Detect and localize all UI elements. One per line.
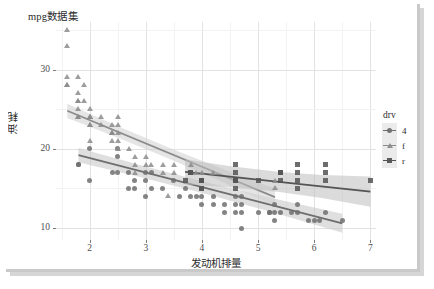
data-point-f (199, 170, 205, 175)
data-point-f (75, 90, 81, 95)
data-point-r (199, 178, 204, 183)
data-point-f (272, 185, 278, 190)
data-point-f (64, 82, 70, 87)
data-point-4 (239, 210, 244, 215)
legend-key-circle-icon (382, 123, 397, 138)
data-point-f (115, 138, 121, 143)
data-point-f (64, 43, 70, 48)
data-point-f (126, 146, 132, 151)
data-point-f (143, 154, 149, 159)
legend-item-f[interactable]: f (382, 138, 432, 153)
data-point-f (171, 170, 177, 175)
data-point-4 (239, 202, 244, 207)
data-point-f (132, 162, 138, 167)
data-point-f (115, 130, 121, 135)
data-point-f (64, 27, 70, 32)
data-point-f (115, 146, 121, 151)
x-axis-title: 发动机排量 (56, 255, 376, 270)
data-point-4 (312, 218, 317, 223)
data-point-4 (211, 202, 216, 207)
y-tick-label: 20 (10, 143, 50, 153)
data-point-r (323, 178, 328, 183)
data-point-f (87, 106, 93, 111)
legend: drv 4fr (382, 110, 432, 168)
data-point-f (148, 162, 154, 167)
data-point-f (81, 98, 87, 103)
x-tick-mark (202, 240, 203, 243)
data-point-4 (340, 218, 345, 223)
x-tick-mark (314, 240, 315, 243)
data-point-f (171, 162, 177, 167)
data-point-4 (278, 210, 283, 215)
data-point-r (323, 162, 328, 167)
data-point-4 (295, 202, 300, 207)
y-tick-mark (53, 70, 56, 71)
data-point-4 (295, 210, 300, 215)
data-point-f (87, 138, 93, 143)
data-point-f (109, 122, 115, 127)
x-tick-label: 3 (131, 243, 161, 253)
y-tick-label: 30 (10, 64, 50, 74)
data-point-r (368, 178, 373, 183)
data-point-r (199, 186, 204, 191)
data-point-4 (306, 218, 311, 223)
legend-title: drv (383, 110, 432, 120)
data-point-4 (110, 170, 115, 175)
x-tick-label: 2 (75, 243, 105, 253)
data-point-f (75, 74, 81, 79)
x-tick-label: 7 (355, 243, 385, 253)
data-point-f (132, 170, 138, 175)
data-point-4 (239, 194, 244, 199)
data-point-f (188, 162, 194, 167)
data-point-4 (177, 194, 182, 199)
data-point-r (233, 170, 238, 175)
data-point-f (160, 170, 166, 175)
data-point-r (295, 186, 300, 191)
data-point-f (64, 74, 70, 79)
data-point-f (165, 193, 171, 198)
x-tick-mark (146, 240, 147, 243)
data-point-f (160, 162, 166, 167)
data-point-r (183, 178, 188, 183)
legend-label: f (402, 141, 405, 151)
data-point-f (115, 114, 121, 119)
legend-item-4[interactable]: 4 (382, 123, 432, 138)
data-point-f (81, 82, 87, 87)
data-point-4 (222, 210, 227, 215)
legend-item-r[interactable]: r (382, 153, 432, 168)
data-point-4 (233, 202, 238, 207)
x-tick-label: 4 (187, 243, 217, 253)
data-point-r (233, 186, 238, 191)
data-point-f (132, 154, 138, 159)
data-point-r (233, 178, 238, 183)
data-point-r (256, 178, 261, 183)
data-point-f (87, 114, 93, 119)
data-point-f (115, 122, 121, 127)
data-point-4 (183, 186, 188, 191)
legend-key-square-icon (382, 153, 397, 168)
data-point-r (188, 170, 193, 175)
data-point-f (87, 122, 93, 127)
chart-title: mpg数据集 (28, 8, 78, 23)
y-axis-title: 油耗 (6, 110, 21, 134)
data-point-4 (222, 202, 227, 207)
data-point-r (323, 170, 328, 175)
data-point-f (98, 114, 104, 119)
legend-items: 4fr (382, 123, 432, 168)
legend-key-triangle-icon (382, 138, 397, 153)
x-tick-label: 6 (299, 243, 329, 253)
data-point-r (295, 170, 300, 175)
data-point-4 (256, 210, 261, 215)
x-tick-mark (90, 240, 91, 243)
data-point-4 (323, 210, 328, 215)
data-point-r (278, 170, 283, 175)
data-point-4 (239, 226, 244, 231)
chart-screenshot: mpg数据集 102030234567 发动机排量 油耗 drv 4fr (0, 0, 434, 289)
y-tick-mark (53, 149, 56, 150)
data-point-f (75, 106, 81, 111)
legend-label: 4 (402, 126, 407, 136)
x-tick-label: 5 (243, 243, 273, 253)
regression-layer (56, 22, 376, 240)
y-tick-mark (53, 228, 56, 229)
y-tick-label: 10 (10, 222, 50, 232)
